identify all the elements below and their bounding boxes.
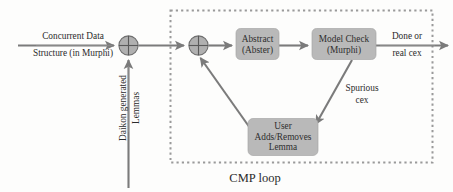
spurious-cex-label-line1: Spurious xyxy=(345,83,378,93)
junction-2 xyxy=(189,36,208,55)
node-model-check-label-line2: (Murphi) xyxy=(327,45,361,56)
node-user-lemma-label-line1: User xyxy=(274,121,292,131)
output-edge-label-line2: real cex xyxy=(392,48,422,58)
user-feedback-arrow xyxy=(201,58,251,128)
node-abstract-label-line1: Abstract xyxy=(242,34,274,44)
daikon-lemmas-label-line2: Lemmas xyxy=(131,92,141,124)
spurious-cex-label-line2: cex xyxy=(356,95,369,105)
output-edge-label-line1: Done or xyxy=(392,31,423,41)
cmp-loop-caption: CMP loop xyxy=(229,171,280,185)
node-abstract-label-line2: (Abster) xyxy=(242,45,273,56)
node-model-check[interactable]: Model Check (Murphi) xyxy=(312,29,376,60)
output-edge-label: Done or real cex xyxy=(392,31,423,58)
node-user-lemma-label-line3: Lemma xyxy=(269,142,297,152)
input-edge-label-line1: Concurrent Data xyxy=(42,31,104,41)
spurious-cex-label: Spurious cex xyxy=(345,83,378,105)
cmp-loop-diagram: Abstract (Abster) Model Check (Murphi) U… xyxy=(0,0,453,192)
node-abstract[interactable]: Abstract (Abster) xyxy=(236,29,279,60)
daikon-lemmas-label-line1: Daikon generated xyxy=(118,75,128,141)
node-user-lemma-label-line2: Adds/Removes xyxy=(255,132,312,142)
node-model-check-label-line1: Model Check xyxy=(319,34,370,44)
input-edge-label-line2: Structure (in Murphi) xyxy=(33,48,113,59)
node-user-lemma[interactable]: User Adds/Removes Lemma xyxy=(248,119,318,156)
junction-1 xyxy=(119,36,138,55)
diagram-canvas: Abstract (Abster) Model Check (Murphi) U… xyxy=(0,0,453,192)
